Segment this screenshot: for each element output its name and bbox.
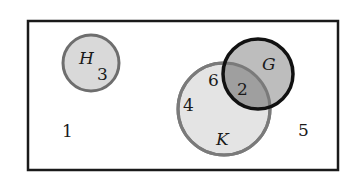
- set-g-label: G: [262, 54, 276, 74]
- region-k-only-upper: 6: [208, 70, 219, 90]
- region-outside: 1: [62, 121, 73, 141]
- region-h-only: 3: [97, 64, 108, 84]
- set-h-label: H: [78, 48, 95, 68]
- region-k-only-left: 4: [183, 95, 194, 115]
- set-k-label: K: [215, 129, 230, 149]
- region-outside-right: 5: [298, 120, 309, 140]
- venn-diagram: H 3 1 5 6 4 K 2 G: [0, 0, 352, 178]
- region-k-and-g: 2: [237, 79, 248, 99]
